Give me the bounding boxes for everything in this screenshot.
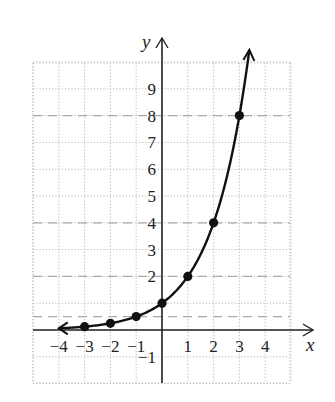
y-tick-label: 7 xyxy=(148,133,157,152)
x-tick-label: 3 xyxy=(235,337,244,356)
x-tick-label: 2 xyxy=(209,337,218,356)
x-tick-label: 4 xyxy=(261,337,270,356)
axes xyxy=(33,38,313,383)
data-point xyxy=(132,312,141,321)
curve xyxy=(59,50,255,334)
y-tick-label: 6 xyxy=(148,160,157,179)
y-tick-label: 3 xyxy=(148,241,157,260)
data-point xyxy=(106,319,115,328)
x-tick-label: 1 xyxy=(184,337,193,356)
y-tick-label: 8 xyxy=(148,107,157,126)
x-tick-label: −2 xyxy=(101,337,119,356)
y-tick-label: −1 xyxy=(138,348,156,367)
y-tick-label: 2 xyxy=(148,267,157,286)
data-point xyxy=(157,299,166,308)
x-tick-label: −3 xyxy=(76,337,94,356)
data-point xyxy=(183,272,192,281)
x-tick-label: −4 xyxy=(50,337,69,356)
data-point xyxy=(80,322,89,331)
y-axis-label: y xyxy=(140,31,151,52)
x-axis-label: x xyxy=(305,334,315,355)
data-point xyxy=(235,111,244,120)
y-tick-label: 5 xyxy=(148,187,157,206)
y-tick-label: 4 xyxy=(148,214,157,233)
data-point xyxy=(209,218,218,227)
exponential-graph: −4−3−2−11234−123456789xy xyxy=(0,0,335,402)
y-tick-label: 9 xyxy=(148,80,157,99)
